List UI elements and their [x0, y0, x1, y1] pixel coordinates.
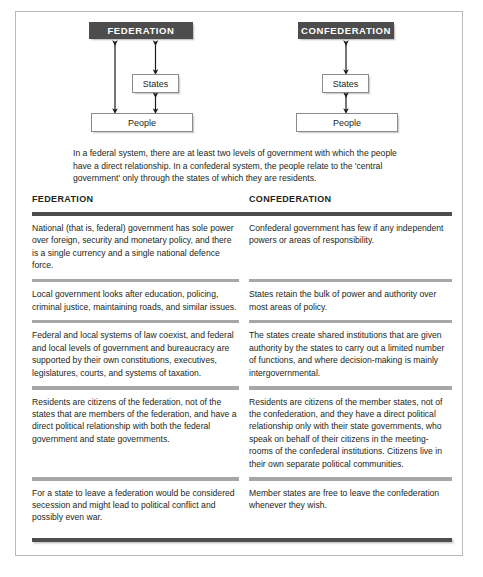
row-separator-left [32, 386, 239, 390]
confederation-people-box: People [296, 113, 398, 132]
confederation-states-box: States [322, 74, 369, 93]
table-row: Federal and local systems of law coexist… [32, 329, 452, 379]
table-row: Local government looks after education, … [32, 288, 452, 313]
cell-confederation: Confederal government has few if any ind… [249, 222, 452, 272]
cell-confederation: Member states are free to leave the conf… [249, 487, 452, 524]
column-header-federation: FEDERATION [32, 194, 93, 204]
table-header-row: FEDERATION CONFEDERATION [32, 194, 452, 212]
cell-federation: Local government looks after education, … [32, 288, 239, 313]
cell-federation: For a state to leave a federation would … [32, 487, 239, 524]
comparison-table: FEDERATION CONFEDERATION National (that … [32, 194, 452, 542]
row-separator-left [32, 279, 239, 283]
table-header-rule [32, 212, 452, 216]
row-separator-right [249, 477, 452, 481]
cell-confederation: Residents are citizens of the member sta… [249, 396, 452, 470]
cell-federation: Residents are citizens of the federation… [32, 396, 239, 470]
column-header-confederation: CONFEDERATION [249, 194, 331, 204]
row-separator-right [249, 320, 452, 324]
row-separator-left [32, 477, 239, 481]
cell-confederation: The states create shared institutions th… [249, 329, 452, 379]
table-row: National (that is, federal) government h… [32, 222, 452, 272]
federation-states-box: States [132, 74, 179, 93]
row-separator [32, 386, 452, 390]
table-row: Residents are citizens of the federation… [32, 396, 452, 470]
cell-federation: National (that is, federal) government h… [32, 222, 239, 272]
row-separator-left [32, 320, 239, 324]
diagram-caption: In a federal system, there are at least … [73, 147, 405, 185]
confederation-title-box: CONFEDERATION [298, 22, 394, 39]
row-separator-right [249, 386, 452, 390]
federation-people-box: People [91, 113, 193, 132]
figure-frame: FEDERATION States People CONFEDERATION S… [15, 11, 463, 556]
row-separator [32, 320, 452, 324]
cell-federation: Federal and local systems of law coexist… [32, 329, 239, 379]
table-footer-rule [32, 538, 452, 543]
row-separator [32, 279, 452, 283]
row-separator-right [249, 279, 452, 283]
cell-confederation: States retain the bulk of power and auth… [249, 288, 452, 313]
row-separator [32, 477, 452, 481]
federation-title-box: FEDERATION [89, 22, 193, 39]
table-row: For a state to leave a federation would … [32, 487, 452, 524]
